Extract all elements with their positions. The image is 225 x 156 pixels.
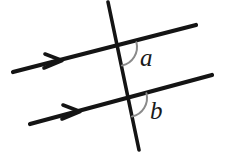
geometry-diagram: a b: [0, 0, 225, 156]
geometry-canvas: a b: [0, 0, 225, 156]
angle-label-a: a: [140, 44, 153, 71]
angle-label-b: b: [150, 97, 163, 124]
